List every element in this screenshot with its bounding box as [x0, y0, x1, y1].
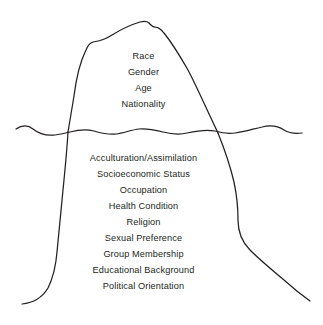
label-occupation: Occupation — [0, 182, 305, 198]
iceberg-diagram: Race Gender Age Nationality Acculturatio… — [0, 0, 323, 325]
label-acculturation-assimilation: Acculturation/Assimilation — [0, 150, 305, 166]
label-political-orientation: Political Orientation — [0, 278, 305, 294]
label-socioeconomic-status: Socioeconomic Status — [0, 166, 305, 182]
label-sexual-preference: Sexual Preference — [0, 230, 305, 246]
label-religion: Religion — [0, 214, 305, 230]
label-health-condition: Health Condition — [0, 198, 305, 214]
above-water-label-group: Race Gender Age Nationality — [0, 48, 323, 112]
waterline — [16, 126, 302, 135]
label-gender: Gender — [0, 64, 305, 80]
below-water-label-group: Acculturation/Assimilation Socioeconomic… — [0, 150, 323, 294]
label-age: Age — [0, 80, 305, 96]
label-nationality: Nationality — [0, 96, 305, 112]
label-educational-background: Educational Background — [0, 262, 305, 278]
label-race: Race — [0, 48, 305, 64]
label-group-membership: Group Membership — [0, 246, 305, 262]
